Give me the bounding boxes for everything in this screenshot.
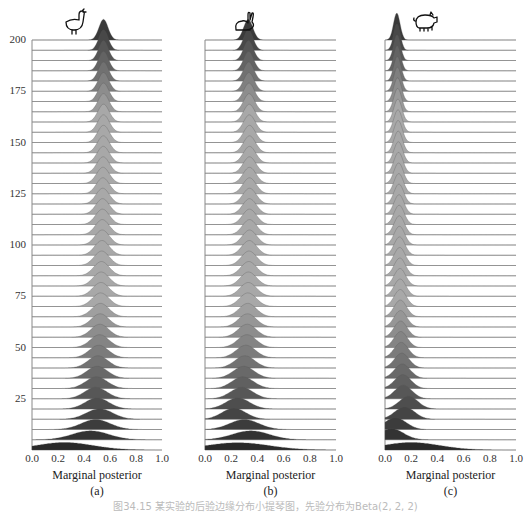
figure-caption: 图34.15 某实验的后验边缘分布小提琴图，先验分布为Beta(2, 2, 2)	[0, 498, 531, 513]
x-tick-label: 0.0	[378, 452, 392, 464]
density-ridge	[385, 24, 516, 50]
density-ridge	[205, 188, 336, 204]
x-tick-label: 0.8	[483, 452, 497, 464]
density-ridge	[32, 443, 162, 451]
y-tick-label: 25	[0, 392, 26, 404]
density-ridge	[205, 178, 336, 194]
x-tick-label: 0.2	[224, 452, 238, 464]
density-ridge	[32, 431, 162, 440]
x-tick-label: 0.4	[431, 452, 445, 464]
density-ridge	[205, 157, 336, 174]
y-tick-label: 125	[0, 187, 26, 199]
density-ridge	[205, 398, 336, 409]
x-tick-label: 0.2	[51, 452, 65, 464]
density-ridge	[32, 19, 162, 40]
x-axis-label: Marginal posterior	[52, 468, 141, 483]
y-tick-label: 175	[0, 84, 26, 96]
x-tick-label: 0.6	[457, 452, 471, 464]
density-ridge	[32, 387, 162, 398]
density-ridge	[205, 324, 336, 337]
density-ridge	[205, 209, 336, 224]
density-ridge	[205, 104, 336, 122]
y-tick-label: 50	[0, 341, 26, 353]
y-tick-label: 150	[0, 136, 26, 148]
x-tick-label: 0.6	[277, 452, 291, 464]
density-ridge	[205, 115, 336, 133]
density-ridge	[385, 443, 516, 451]
x-tick-label: 0.8	[303, 452, 317, 464]
density-ridge	[205, 62, 336, 81]
density-ridge	[385, 429, 516, 440]
panel-c	[385, 13, 516, 450]
density-ridge	[205, 83, 336, 101]
panel-sublabel: (c)	[444, 484, 457, 499]
y-tick-label: 200	[0, 33, 26, 45]
density-ridge	[205, 51, 336, 71]
panel-b	[205, 19, 336, 450]
panel-a	[32, 19, 162, 450]
density-ridge	[205, 230, 336, 245]
y-tick-label: 100	[0, 238, 26, 250]
density-ridge	[205, 125, 336, 142]
x-tick-label: 0.0	[25, 452, 39, 464]
x-tick-label: 0.2	[404, 452, 418, 464]
density-ridge	[385, 385, 516, 399]
x-axis-label: Marginal posterior	[226, 468, 315, 483]
density-ridge	[32, 398, 162, 409]
density-ridge	[205, 146, 336, 163]
density-ridge	[205, 136, 336, 153]
x-tick-label: 1.0	[329, 452, 343, 464]
panel-sublabel: (a)	[90, 484, 103, 499]
x-tick-label: 0.4	[77, 452, 91, 464]
density-ridge	[205, 241, 336, 256]
density-ridge	[205, 387, 336, 399]
density-ridge	[205, 303, 336, 316]
x-tick-label: 0.0	[198, 452, 212, 464]
x-tick-label: 0.4	[251, 452, 265, 464]
density-ridge	[32, 409, 162, 419]
x-tick-label: 0.6	[103, 452, 117, 464]
y-tick-label: 75	[0, 289, 26, 301]
density-ridge	[205, 314, 336, 327]
density-ridge	[205, 443, 336, 450]
density-ridge	[205, 251, 336, 266]
density-ridge	[205, 272, 336, 286]
density-ridge	[385, 13, 516, 40]
x-tick-label: 0.8	[129, 452, 143, 464]
density-ridge	[205, 199, 336, 215]
x-tick-label: 1.0	[155, 452, 169, 464]
density-ridge	[205, 94, 336, 112]
chicken-icon	[66, 9, 86, 34]
density-ridge	[205, 73, 336, 92]
density-ridge	[205, 262, 336, 276]
panel-sublabel: (b)	[264, 484, 278, 499]
pig-icon	[414, 12, 437, 31]
density-ridge	[205, 408, 336, 419]
density-ridge	[205, 420, 336, 430]
density-ridge	[205, 293, 336, 307]
density-ridge	[205, 167, 336, 183]
density-ridge	[205, 19, 336, 40]
density-ridge	[205, 283, 336, 297]
density-ridge	[205, 431, 336, 440]
density-ridge	[32, 420, 162, 430]
x-axis-label: Marginal posterior	[406, 468, 495, 483]
x-tick-label: 1.0	[509, 452, 523, 464]
density-ridge	[205, 220, 336, 235]
